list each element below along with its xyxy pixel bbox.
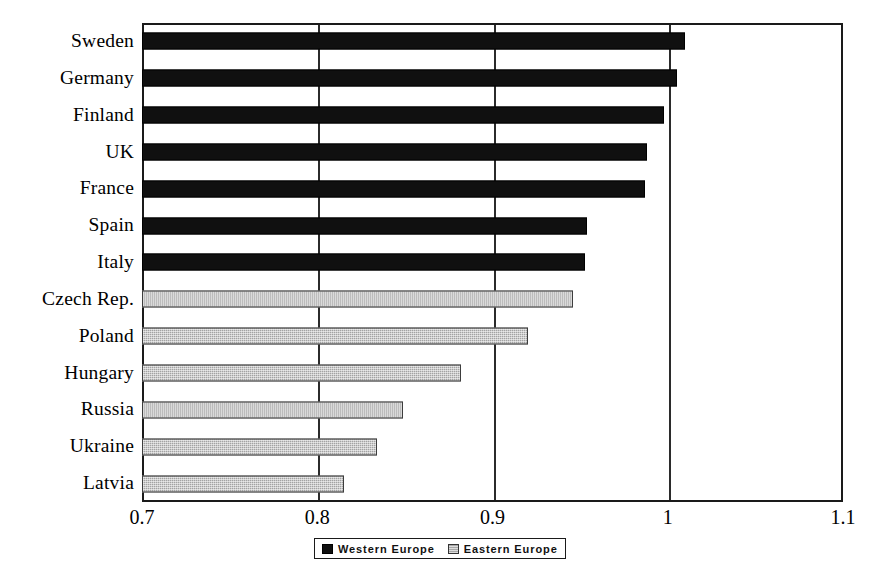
chart-row — [142, 170, 843, 207]
bar-hungary[interactable] — [142, 365, 461, 382]
x-axis-tick-label: 0.9 — [453, 506, 533, 529]
y-axis-tick-label: Russia — [0, 391, 134, 428]
chart-row — [142, 134, 843, 171]
chart-row — [142, 60, 843, 97]
chart-row — [142, 391, 843, 428]
bars-layer — [142, 23, 843, 502]
y-axis-tick-label: Italy — [0, 244, 134, 281]
bar-italy[interactable] — [142, 254, 585, 271]
chart-row — [142, 244, 843, 281]
bar-sweden[interactable] — [142, 33, 685, 50]
y-axis-tick-label: Latvia — [0, 465, 134, 502]
bar-chart: SwedenGermanyFinlandUKFranceSpainItalyCz… — [0, 0, 888, 588]
legend-label-western: Western Europe — [338, 543, 435, 555]
bar-germany[interactable] — [142, 70, 677, 87]
bar-spain[interactable] — [142, 217, 587, 234]
bar-uk[interactable] — [142, 143, 647, 160]
y-axis-tick-label: Hungary — [0, 355, 134, 392]
y-axis-tick-label: Ukraine — [0, 428, 134, 465]
chart-row — [142, 355, 843, 392]
y-axis-tick-label: Czech Rep. — [0, 281, 134, 318]
bar-russia[interactable] — [142, 401, 403, 418]
y-axis-tick-label: Spain — [0, 207, 134, 244]
x-axis-tick-label: 1 — [628, 506, 708, 529]
y-axis-tick-label: Finland — [0, 97, 134, 134]
chart-legend: Western Europe Eastern Europe — [314, 538, 566, 559]
bar-latvia[interactable] — [142, 475, 344, 492]
chart-row — [142, 23, 843, 60]
bar-finland[interactable] — [142, 107, 664, 124]
chart-row — [142, 97, 843, 134]
legend-swatch-icon-western — [322, 544, 333, 554]
bar-france[interactable] — [142, 180, 645, 197]
y-axis-tick-label: Germany — [0, 60, 134, 97]
x-axis-tick-label: 1.1 — [803, 506, 883, 529]
bar-czech-rep[interactable] — [142, 291, 573, 308]
legend-swatch-icon-eastern — [448, 544, 459, 554]
bar-ukraine[interactable] — [142, 438, 377, 455]
y-axis-tick-label: Sweden — [0, 23, 134, 60]
chart-row — [142, 465, 843, 502]
chart-row — [142, 428, 843, 465]
y-axis-labels: SwedenGermanyFinlandUKFranceSpainItalyCz… — [0, 23, 138, 502]
y-axis-tick-label: UK — [0, 134, 134, 171]
legend-item-western-europe: Western Europe — [322, 543, 435, 555]
y-axis-tick-label: France — [0, 170, 134, 207]
chart-row — [142, 281, 843, 318]
legend-item-eastern-europe: Eastern Europe — [448, 543, 558, 555]
chart-row — [142, 318, 843, 355]
legend-label-eastern: Eastern Europe — [464, 543, 558, 555]
x-axis-tick-label: 0.8 — [277, 506, 357, 529]
x-axis-tick-label: 0.7 — [102, 506, 182, 529]
chart-row — [142, 207, 843, 244]
y-axis-tick-label: Poland — [0, 318, 134, 355]
bar-poland[interactable] — [142, 328, 528, 345]
